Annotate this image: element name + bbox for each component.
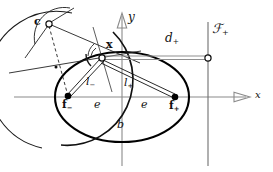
label-eccentricity-left: e [94, 99, 101, 110]
label-directrix-sub: + [222, 28, 229, 37]
label-focus-minus-sub: − [67, 104, 73, 112]
label-point-x: x [106, 39, 113, 50]
axis-group [14, 16, 246, 166]
label-directrix-symbol: ℱ [212, 21, 222, 36]
tangent-line-through-x [9, 51, 141, 73]
label-radius-l-plus-sub: + [128, 82, 134, 90]
line-from-c-upper-right [51, 8, 74, 22]
label-distance-d-plus-main: d [165, 31, 173, 45]
label-focus-plus-sub: + [174, 105, 180, 113]
label-distance-d-plus-sub: + [173, 37, 179, 46]
label-directrix-F-plus: ℱ+ [212, 22, 229, 37]
label-semi-minor-b: b [117, 119, 124, 130]
label-eccentricity-right: e [141, 99, 148, 110]
point-x-marker [99, 55, 105, 61]
directrix-point-marker [205, 55, 211, 61]
ray-c-through-x [49, 24, 140, 63]
label-distance-d-plus: d+ [165, 32, 179, 46]
geometry-figure: c x y x d+ ℱ+ l− l+ f− f+ e e b [0, 0, 273, 172]
label-axis-y: y [128, 11, 135, 23]
dashed-c-to-focus-minus [49, 26, 68, 96]
label-radius-l-minus: l− [86, 76, 95, 89]
label-focus-minus: f− [62, 99, 72, 112]
label-axis-x: x [255, 90, 261, 100]
midpoint-marker [55, 66, 58, 69]
line-from-c-lower-left [25, 27, 47, 58]
focal-radius-plus [101, 60, 175, 98]
construction-circle-arc [0, 11, 72, 148]
label-radius-l-minus-sub: − [90, 81, 96, 89]
label-center-c: c [34, 16, 41, 27]
label-focus-plus: f+ [169, 100, 179, 113]
label-radius-l-plus: l+ [124, 77, 133, 90]
point-c-marker [46, 21, 52, 27]
